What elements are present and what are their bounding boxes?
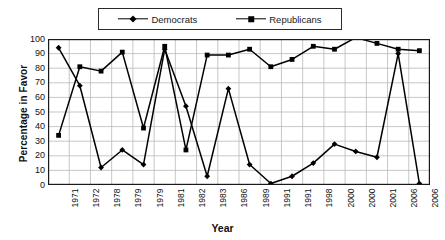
data-point-republicans [77, 64, 82, 69]
data-point-republicans [120, 50, 125, 55]
x-tick-label: 1982 [186, 170, 196, 204]
y-tick-label: 70 [21, 78, 45, 87]
legend-item-republicans: Republicans [236, 14, 321, 25]
x-tick-label: 2006 [398, 170, 408, 204]
y-tick-label: 90 [21, 49, 45, 58]
data-point-republicans [226, 53, 231, 58]
y-tick-label: 50 [21, 108, 45, 117]
legend-label-republicans: Republicans [269, 14, 321, 25]
x-tick-label: 1998 [313, 170, 323, 204]
data-point-republicans [141, 126, 146, 131]
y-tick-label: 0 [21, 181, 45, 190]
x-tick-label: 1978 [101, 170, 111, 204]
x-tick-label: 2001 [377, 170, 387, 204]
y-tick-label: 20 [21, 151, 45, 160]
line-chart: Democrats Republicans Percentage in Favo… [0, 0, 445, 240]
x-tick-label: 2000 [335, 170, 345, 204]
x-axis-title: Year [0, 222, 445, 234]
x-tick-label: 1971 [59, 170, 69, 204]
data-point-republicans [247, 47, 252, 52]
data-point-republicans [99, 69, 104, 74]
square-marker-icon [236, 14, 266, 24]
data-point-republicans [417, 48, 422, 53]
x-axis-ticks: 1971197219781979197919811982198319861989… [48, 187, 430, 221]
x-tick-label: 1986 [228, 170, 238, 204]
x-tick-label: 2006 [419, 170, 429, 204]
y-tick-label: 80 [21, 64, 45, 73]
y-tick-label: 60 [21, 93, 45, 102]
data-point-republicans [396, 47, 401, 52]
plot-svg [48, 39, 430, 185]
x-tick-label: 1972 [80, 170, 90, 204]
x-tick-label: 1991 [271, 170, 281, 204]
x-tick-label: 1979 [122, 170, 132, 204]
y-tick-label: 40 [21, 122, 45, 131]
x-tick-label: 2000 [356, 170, 366, 204]
x-tick-label: 1983 [207, 170, 217, 204]
data-point-republicans [162, 44, 167, 49]
x-tick-label: 1979 [144, 170, 154, 204]
legend-label-democrats: Democrats [151, 14, 197, 25]
data-point-republicans [268, 64, 273, 69]
y-axis-ticks: 0102030405060708090100 [18, 39, 45, 185]
x-tick-label: 1991 [292, 170, 302, 204]
data-point-republicans [332, 47, 337, 52]
plot-area [48, 39, 430, 185]
y-tick-label: 10 [21, 166, 45, 175]
y-tick-label: 30 [21, 137, 45, 146]
x-tick-label: 1989 [250, 170, 260, 204]
data-point-republicans [290, 57, 295, 62]
legend-item-democrats: Democrats [118, 14, 197, 25]
data-point-republicans [311, 44, 316, 49]
data-point-republicans [184, 148, 189, 153]
data-point-republicans [56, 133, 61, 138]
data-point-republicans [205, 53, 210, 58]
diamond-marker-icon [118, 14, 148, 24]
x-tick-label: 1981 [165, 170, 175, 204]
chart-legend: Democrats Republicans [98, 8, 342, 30]
y-tick-label: 100 [21, 35, 45, 44]
data-point-republicans [375, 41, 380, 46]
